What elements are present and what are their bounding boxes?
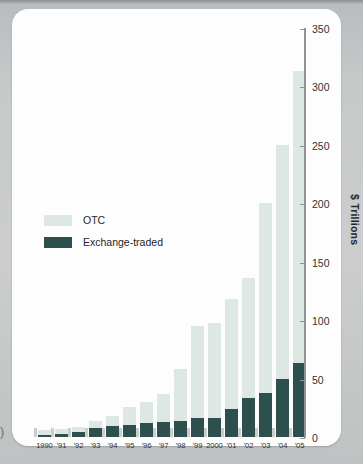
bar-segment-otc [140,402,153,423]
bar-foot-tick [170,428,173,437]
bar-foot-tick [102,428,105,437]
y-axis-tick [300,204,305,205]
bar-segment-exchange-traded [140,423,153,437]
bar-segment-exchange-traded [174,421,187,437]
legend-item-otc: OTC [44,212,163,228]
chart-legend: OTC Exchange-traded [44,212,163,256]
bar-foot-tick [289,428,292,437]
y-axis-tick [300,321,305,322]
bar-foot-tick [221,428,224,437]
bar-segment-otc [106,416,119,427]
bar-foot-tick [51,428,54,437]
scanned-page: $ Trillions 1990'91'92'93'94'95'96'97'98… [0,0,363,464]
bar-foot-tick [204,428,207,437]
y-axis-tick-label: 100 [312,316,330,326]
legend-swatch-otc-icon [44,215,72,226]
y-axis-tick [300,438,305,439]
bar-segment-exchange-traded [225,409,238,437]
bar-column [259,28,272,437]
y-axis-tick [300,146,305,147]
bar-segment-otc [225,299,238,409]
bar-foot-tick [238,428,241,437]
page-margin-marker: ) [0,425,12,439]
y-axis-tick [300,87,305,88]
bar-segment-exchange-traded [157,422,170,437]
bar-foot-tick [119,428,122,437]
legend-item-exchange-traded: Exchange-traded [44,234,163,250]
bar-segment-otc [208,323,221,419]
bar-foot-tick [153,428,156,437]
y-axis-tick [300,380,305,381]
y-axis-tick [300,29,305,30]
bar-segment-otc [157,394,170,422]
bar-segment-otc [242,278,255,398]
bar-segment-otc [174,369,187,420]
bar-foot-tick [34,428,37,437]
bar-column [242,28,255,437]
bar-segment-exchange-traded [72,432,85,437]
bar-segment-exchange-traded [208,418,221,437]
bar-segment-otc [259,203,272,392]
chart-card: $ Trillions 1990'91'92'93'94'95'96'97'98… [12,9,341,446]
y-axis-tick-label: 250 [312,141,330,151]
y-axis-tick-label: 350 [312,24,330,34]
y-axis-tick-label: 0 [312,433,318,443]
y-axis-line [304,28,306,438]
bar-column [174,28,187,437]
legend-label-exchange-traded: Exchange-traded [83,236,163,248]
bar-segment-exchange-traded [191,418,204,437]
bar-segment-exchange-traded [89,428,102,437]
y-axis-tick-label: 300 [312,82,330,92]
y-axis-tick-label: 200 [312,199,330,209]
bar-column [208,28,221,437]
y-axis-title: $ Trillions [349,194,361,245]
bar-column [191,28,204,437]
bar-foot-tick [187,428,190,437]
legend-swatch-exchange-traded-icon [44,237,72,248]
bar-foot-tick [272,428,275,437]
bar-segment-exchange-traded [276,379,289,437]
bar-foot-tick [85,428,88,437]
legend-label-otc: OTC [83,214,105,226]
bar-segment-exchange-traded [106,426,119,437]
bar-segment-exchange-traded [242,398,255,437]
y-axis-tick-label: 150 [312,258,330,268]
bar-foot-tick [255,428,258,437]
bar-segment-exchange-traded [123,425,136,437]
bar-segment-exchange-traded [259,393,272,437]
bar-column [225,28,238,437]
bar-foot-tick [136,428,139,437]
y-axis-tick-label: 50 [312,375,324,385]
bar-segment-exchange-traded [55,434,68,438]
bar-segment-otc [123,407,136,426]
bar-column [276,28,289,437]
y-axis-tick [300,263,305,264]
bar-segment-exchange-traded [38,435,51,437]
bar-foot-tick [68,428,71,437]
bar-segment-otc [276,145,289,379]
bar-segment-otc [191,326,204,418]
bar-segment-otc [89,421,102,428]
